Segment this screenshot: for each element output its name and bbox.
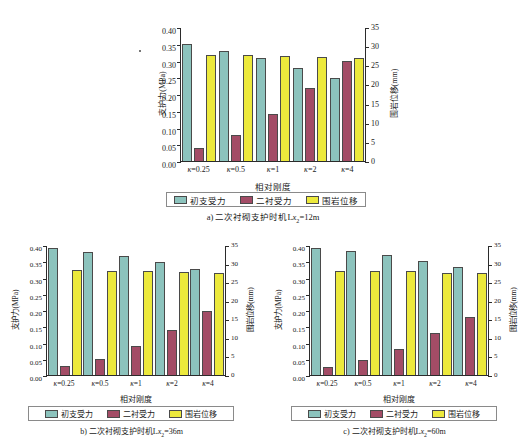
y-tick-label: 0.40 xyxy=(20,246,42,253)
bar-group xyxy=(47,246,83,375)
bar-group xyxy=(189,246,225,375)
legend-label: 初支受力 xyxy=(61,408,93,419)
chart-a-bars xyxy=(181,28,365,161)
y2-tick-mark xyxy=(488,283,492,284)
y2-tick-mark xyxy=(365,105,369,106)
y-tick-mark xyxy=(306,279,310,280)
x-tick-label: κ=0.25 xyxy=(46,380,82,388)
y2-tick-mark xyxy=(225,302,229,303)
chart-c-bars xyxy=(310,246,488,375)
chart-b-container: 0.000.050.100.150.200.250.300.350.40 051… xyxy=(0,232,263,447)
bar-围岩位移 xyxy=(406,271,416,375)
y-tick-label: 0.10 xyxy=(154,129,176,137)
y-tick-label: 0.20 xyxy=(283,311,305,318)
y-tick-mark xyxy=(177,145,181,146)
y-tick-label: 0.40 xyxy=(154,28,176,36)
y-tick-mark xyxy=(177,162,181,163)
y-tick-mark xyxy=(306,327,310,328)
chart-a-caption-tail: =12m xyxy=(299,212,319,222)
y2-tick-mark xyxy=(365,66,369,67)
legend-item-二衬受力: 二衬受力 xyxy=(370,408,418,419)
x-tick-label: κ=1 xyxy=(254,166,291,174)
bar-group xyxy=(291,28,328,161)
y2-tick-label: 35 xyxy=(231,242,238,249)
bar-围岩位移 xyxy=(179,272,189,375)
x-tick-label: κ=4 xyxy=(453,380,489,388)
y2-tick-mark xyxy=(365,143,369,144)
x-tick-label: κ=2 xyxy=(417,380,453,388)
y-tick-mark xyxy=(177,129,181,130)
y-tick-mark xyxy=(306,376,310,377)
bar-二衬受力 xyxy=(60,366,70,375)
y2-tick-label: 20 xyxy=(494,298,501,305)
y2-tick-label: 25 xyxy=(494,279,501,286)
x-tick-label: κ=0.25 xyxy=(180,166,217,174)
bar-二衬受力 xyxy=(131,346,141,375)
y-tick-mark xyxy=(177,62,181,63)
y-tick-mark xyxy=(43,311,47,312)
bar-围岩位移 xyxy=(280,56,290,161)
bar-二衬受力 xyxy=(194,148,204,161)
x-tick-label: κ=2 xyxy=(292,166,329,174)
bar-group xyxy=(328,28,365,161)
bar-初支受力 xyxy=(418,261,428,375)
y-tick-label: 0.05 xyxy=(154,145,176,153)
chart-a-caption-title: a) 二次衬砌支护时机L xyxy=(207,212,293,222)
bar-初支受力 xyxy=(48,248,58,375)
chart-b-y2-axis-title: 围岩位移(mm) xyxy=(244,276,255,344)
chart-b-caption-tail: =36m xyxy=(164,427,183,436)
y-tick-mark xyxy=(43,246,47,247)
y-tick-mark xyxy=(43,344,47,345)
legend-swatch-icon xyxy=(107,410,120,418)
bar-group xyxy=(181,28,218,161)
y2-tick-label: 10 xyxy=(231,335,238,342)
bar-围岩位移 xyxy=(335,271,345,375)
y2-tick-mark xyxy=(365,162,369,163)
legend-label: 二衬受力 xyxy=(386,408,418,419)
y2-tick-mark xyxy=(225,283,229,284)
legend-label: 围岩位移 xyxy=(185,408,217,419)
chart-c-y2-axis-title: 围岩位移(mm) xyxy=(507,276,518,344)
y-tick-label: 0.00 xyxy=(20,376,42,383)
y2-tick-label: 0 xyxy=(371,158,375,166)
bar-二衬受力 xyxy=(202,311,212,375)
y2-tick-mark xyxy=(225,339,229,340)
y-tick-label: 0.20 xyxy=(20,311,42,318)
y2-tick-mark xyxy=(488,302,492,303)
x-tick-label: κ=0.5 xyxy=(217,166,254,174)
legend-swatch-icon xyxy=(240,196,253,204)
chart-c: 0.000.050.100.150.200.250.300.350.40 051… xyxy=(263,232,526,447)
chart-a-container: 0.000.050.100.150.200.250.300.350.40 051… xyxy=(0,6,526,218)
y-tick-label: 0.35 xyxy=(20,262,42,269)
y2-tick-label: 10 xyxy=(494,335,501,342)
bar-group xyxy=(310,246,346,375)
legend-item-初支受力: 初支受力 xyxy=(45,408,93,419)
bar-初支受力 xyxy=(382,255,392,375)
bar-初支受力 xyxy=(219,51,229,161)
y-tick-mark xyxy=(43,262,47,263)
y2-tick-label: 0 xyxy=(231,372,235,379)
y2-tick-label: 5 xyxy=(494,353,498,360)
bar-初支受力 xyxy=(182,44,192,161)
chart-b-legend: 初支受力二衬受力围岩位移 xyxy=(28,406,234,421)
y2-tick-mark xyxy=(488,376,492,377)
y-tick-label: 0.25 xyxy=(283,294,305,301)
y2-tick-mark xyxy=(488,339,492,340)
x-tick-label: κ=0.5 xyxy=(345,380,381,388)
y2-tick-label: 30 xyxy=(371,43,379,51)
bar-初支受力 xyxy=(119,256,129,375)
bar-围岩位移 xyxy=(107,271,117,375)
bar-二衬受力 xyxy=(167,330,177,376)
bar-group xyxy=(218,28,255,161)
chart-b-x-tick-labels: κ=0.25κ=0.5κ=1κ=2κ=4 xyxy=(46,380,226,388)
chart-c-plot-area xyxy=(309,246,489,376)
chart-b-caption-title: b) 二次衬砌支护时机L xyxy=(80,427,158,436)
chart-b-bars xyxy=(47,246,225,375)
chart-c-x-tick-labels: κ=0.25κ=0.5κ=1κ=2κ=4 xyxy=(309,380,489,388)
y-tick-mark xyxy=(177,45,181,46)
y2-tick-mark xyxy=(225,376,229,377)
y-tick-label: 0.10 xyxy=(20,343,42,350)
y2-tick-label: 20 xyxy=(371,81,379,89)
legend-swatch-icon xyxy=(45,410,58,418)
legend-item-初支受力: 初支受力 xyxy=(308,408,356,419)
